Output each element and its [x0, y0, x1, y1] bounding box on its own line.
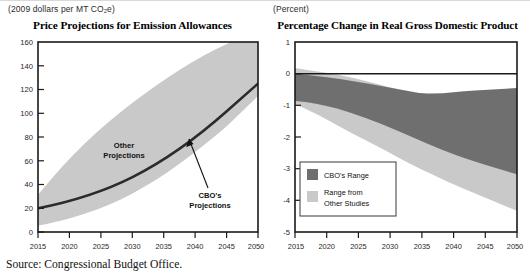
- legend-item-cbos-range[interactable]: CBO's Range: [307, 169, 369, 180]
- x-tick-label: 2035: [414, 242, 430, 251]
- x-tick-label: 2025: [350, 242, 366, 251]
- y-tick-label: 80: [25, 133, 33, 142]
- plot-area-price-projections: 0 20 40 60 80 100 120 140 160 201: [0, 36, 265, 258]
- x-tick-label: 2050: [248, 242, 264, 251]
- x-tick-label: 2040: [445, 242, 461, 251]
- x-tick-label: 2020: [61, 242, 77, 251]
- y-tick-label: 0: [29, 228, 33, 237]
- other-projections-line-2: Projections: [103, 151, 144, 160]
- x-tick-label: 2030: [382, 242, 398, 251]
- legend-label-range-other-studies-line-1: Range from: [324, 188, 363, 197]
- y-tick-label: 1: [286, 38, 290, 47]
- y-axis-right: 1 0 -1 -2 -3 -4 -5: [283, 38, 301, 237]
- unit-label-right-text: (Percent): [273, 4, 309, 14]
- x-tick-label: 2045: [218, 242, 234, 251]
- y-tick-label: -3: [283, 164, 290, 173]
- x-tick-label: 2040: [187, 242, 203, 251]
- figure-container: (2009 dollars per MT CO₂e) Price Project…: [0, 0, 530, 280]
- other-projections-line-1: Other: [114, 141, 134, 150]
- x-tick-label: 2035: [155, 242, 171, 251]
- x-axis-right: 2015 2020 2025 2030 2035 2040 2045 2050: [288, 232, 523, 251]
- cbos-projections-annotation: CBO's Projections: [186, 139, 230, 210]
- x-tick-label: 2030: [124, 242, 140, 251]
- y-tick-label: -5: [283, 228, 290, 237]
- band-other-projections: [38, 36, 258, 226]
- y-tick-label: -4: [283, 196, 290, 205]
- y-tick-label: 160: [20, 38, 33, 47]
- legend-swatch-cbos-range: [307, 169, 318, 180]
- y-tick-label: 40: [25, 180, 33, 189]
- page-title-left: Price Projections for Emission Allowance…: [0, 19, 265, 31]
- y-tick-label: -1: [283, 101, 290, 110]
- legend-label-cbos-range: CBO's Range: [324, 171, 369, 180]
- x-tick-label: 2045: [477, 242, 493, 251]
- legend-swatch-range-other-studies: [307, 191, 318, 202]
- y-tick-label: 0: [286, 69, 290, 78]
- unit-label-left-text: (2009 dollars per MT CO₂e): [8, 4, 115, 14]
- chart-panel-price-projections: (2009 dollars per MT CO₂e) Price Project…: [0, 0, 265, 258]
- unit-label-left: (2009 dollars per MT CO₂e): [8, 4, 115, 14]
- legend-label-range-other-studies-line-2: Other Studies: [324, 199, 369, 208]
- source-note: Source: Congressional Budget Office.: [6, 258, 182, 271]
- plot-area-gdp-change: 1 0 -1 -2 -3 -4 -5 2015 2020 2025: [265, 36, 530, 258]
- x-tick-label: 2025: [93, 242, 109, 251]
- cbos-projections-line-1: CBO's: [199, 191, 222, 200]
- x-tick-label: 2015: [288, 242, 304, 251]
- cbos-projections-line-2: Projections: [189, 201, 230, 210]
- y-tick-label: 20: [25, 204, 33, 213]
- chart-panel-gdp-change: (Percent) Percentage Change in Real Gros…: [265, 0, 530, 258]
- x-tick-label: 2015: [30, 242, 46, 251]
- y-tick-label: -2: [283, 133, 290, 142]
- x-tick-label: 2050: [507, 242, 523, 251]
- legend: CBO's Range Range from Other Studies: [300, 162, 396, 216]
- y-tick-label: 140: [20, 62, 33, 71]
- x-tick-label: 2020: [318, 242, 334, 251]
- y-tick-label: 100: [20, 109, 33, 118]
- unit-label-right: (Percent): [273, 4, 309, 14]
- y-tick-label: 60: [25, 157, 33, 166]
- x-axis-left: 2015 2020 2025 2030 2035 2040 2045 2050: [30, 232, 264, 251]
- page-title-right: Percentage Change in Real Gross Domestic…: [265, 19, 530, 31]
- y-tick-label: 120: [20, 85, 33, 94]
